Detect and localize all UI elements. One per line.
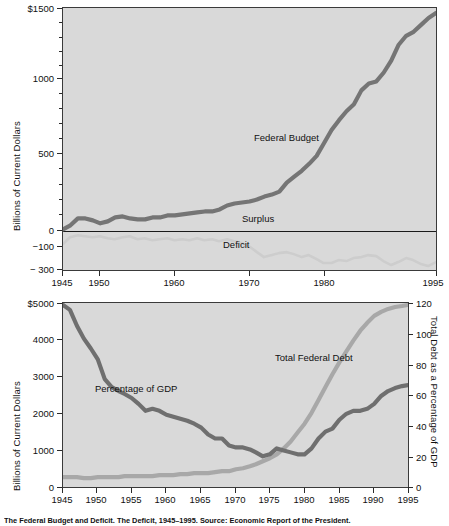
top-chart-plot-inner: Federal Budget Surplus Deficit <box>63 8 436 270</box>
top-chart-xlabel-1960: 1960 <box>163 278 184 288</box>
figure-caption: The Federal Budget and Deficit. The Defi… <box>4 517 445 526</box>
top-chart-xlabel-1970: 1970 <box>238 278 259 288</box>
top-chart-xtick-1945 <box>62 271 63 276</box>
top-chart-ylabel-0: 0 <box>4 226 54 236</box>
bottom-chart-xlabel-1950: 1950 <box>85 495 106 505</box>
top-chart-ytick-minor <box>59 51 63 52</box>
top-chart-ytick-minor <box>59 168 63 169</box>
bottom-chart-y2label-0: 0 <box>416 483 421 493</box>
bottom-chart-ylabel-4000: 4000 <box>4 335 54 345</box>
bottom-chart-annotation-total-federal-debt: Total Federal Debt <box>275 353 353 363</box>
top-chart-xtick-1960 <box>174 271 175 276</box>
bottom-chart-curves <box>63 303 408 487</box>
top-chart-xtick-1950 <box>99 271 100 276</box>
top-chart-ytick-minor <box>59 199 63 200</box>
top-chart-ytick-minor <box>59 138 63 139</box>
top-chart-ytick-0 <box>57 230 62 231</box>
top-chart-ylabel-1000: 1000 <box>4 74 54 84</box>
bottom-chart-ytick-3000 <box>57 376 62 377</box>
bottom-chart-xtick-1995 <box>408 488 409 493</box>
bottom-chart-y2label-80: 80 <box>416 361 427 371</box>
bottom-chart-y2tick-100 <box>408 334 413 335</box>
top-chart-ytick-1000 <box>57 78 62 79</box>
bottom-chart-xtick-1945 <box>62 488 63 493</box>
top-chart-xtick-1970 <box>249 271 250 276</box>
bottom-chart-xlabel-1945: 1945 <box>51 495 72 505</box>
bottom-chart-y2tick-80 <box>408 365 413 366</box>
top-chart-xtick-1995 <box>436 271 437 276</box>
top-chart-xlabel-1950: 1950 <box>88 278 109 288</box>
top-chart-ylabel-minus100: −100 <box>4 242 54 252</box>
bottom-chart-y2label-40: 40 <box>416 422 427 432</box>
bottom-chart-xlabel-1990: 1990 <box>362 495 383 505</box>
bottom-chart-xlabel-1960: 1960 <box>154 495 175 505</box>
bottom-chart-xlabel-1995: 1995 <box>397 495 418 505</box>
bottom-chart-xlabel-1965: 1965 <box>189 495 210 505</box>
top-chart-annotation-deficit: Deficit <box>223 240 249 250</box>
bottom-chart-xtick-1970 <box>235 488 236 493</box>
top-chart-ytick-minor <box>59 108 63 109</box>
bottom-chart-xtick-1985 <box>339 488 340 493</box>
bottom-chart-ytick-2000 <box>57 413 62 414</box>
bottom-chart-y2tick-60 <box>408 395 413 396</box>
top-chart-ylabel-500: 500 <box>4 149 54 159</box>
bottom-chart-xtick-1990 <box>373 488 374 493</box>
bottom-chart-xlabel-1975: 1975 <box>258 495 279 505</box>
bottom-chart-xtick-1980 <box>304 488 305 493</box>
top-chart-xlabel-1945: 1945 <box>51 278 72 288</box>
top-chart-ytick-minor <box>59 123 63 124</box>
bottom-chart-y2tick-40 <box>408 426 413 427</box>
top-chart-ytick-minor <box>59 37 63 38</box>
bottom-chart-y2tick-120 <box>408 303 413 304</box>
bottom-chart-xtick-1965 <box>200 488 201 493</box>
bottom-chart-xtick-1975 <box>269 488 270 493</box>
top-chart-y-axis-title: Billions of Current Dollars <box>11 121 22 231</box>
top-chart-xlabel-1995: 1995 <box>422 278 443 288</box>
figure-federal-budget-and-debt: Billions of Current Dollars Federal Budg… <box>0 0 449 526</box>
bottom-chart-plot-area: Percentage of GDP Total Federal Debt <box>62 302 409 488</box>
top-chart-ytick-minus300 <box>57 269 62 270</box>
top-chart-curves <box>63 8 436 270</box>
top-chart-ylabel-minus300: − 300 <box>0 265 54 275</box>
bottom-chart-annotation-percentage-of-gdp: Percentage of GDP <box>95 384 177 394</box>
top-chart-ytick-minor <box>59 65 63 66</box>
bottom-chart-y2tick-20 <box>408 457 413 458</box>
bottom-chart-xtick-1955 <box>131 488 132 493</box>
bottom-chart-ytick-5000 <box>57 303 62 304</box>
bottom-chart-y2label-120: 120 <box>416 299 432 309</box>
bottom-chart-plot-inner: Percentage of GDP Total Federal Debt <box>63 303 408 487</box>
bottom-chart-ytick-1000 <box>57 450 62 451</box>
bottom-chart-ylabel-1000: 1000 <box>4 446 54 456</box>
bottom-chart-xlabel-1955: 1955 <box>120 495 141 505</box>
bottom-chart-xtick-1960 <box>165 488 166 493</box>
bottom-chart-xlabel-1980: 1980 <box>293 495 314 505</box>
bottom-chart-ylabel-2000: 2000 <box>4 409 54 419</box>
top-chart-ytick-minus100 <box>57 246 62 247</box>
top-chart-annotation-surplus: Surplus <box>242 214 274 224</box>
top-chart-xlabel-1980: 1980 <box>313 278 334 288</box>
bottom-chart-ylabel-3000: 3000 <box>4 372 54 382</box>
top-chart-xtick-1980 <box>324 271 325 276</box>
top-chart-series-deficit <box>63 235 436 266</box>
bottom-chart-ylabel-5000: $5000 <box>4 299 54 309</box>
bottom-chart-y-axis-title: Billions of Current Dollars <box>11 381 22 491</box>
top-chart-ytick-minor <box>59 184 63 185</box>
top-chart-ytick-minor <box>59 93 63 94</box>
top-chart-ytick-1500 <box>57 8 62 9</box>
bottom-chart-ytick-4000 <box>57 339 62 340</box>
top-chart-ytick-minor <box>59 22 63 23</box>
top-chart-ytick-500 <box>57 153 62 154</box>
top-chart-plot-area: Federal Budget Surplus Deficit <box>62 7 437 271</box>
bottom-chart-y2label-100: 100 <box>416 330 432 340</box>
chart-federal-budget: Billions of Current Dollars Federal Budg… <box>0 0 449 290</box>
bottom-chart-series-percentage-of-gdp <box>63 305 408 456</box>
bottom-chart-y2label-60: 60 <box>416 391 427 401</box>
top-chart-series-federal-budget <box>63 13 436 229</box>
bottom-chart-xtick-1950 <box>96 488 97 493</box>
top-chart-ytick-minor <box>59 214 63 215</box>
bottom-chart-xlabel-1985: 1985 <box>328 495 349 505</box>
top-chart-annotation-federal-budget: Federal Budget <box>254 133 319 143</box>
bottom-chart-xlabel-1970: 1970 <box>224 495 245 505</box>
bottom-chart-y2label-20: 20 <box>416 453 427 463</box>
chart-total-federal-debt: Billions of Current Dollars Total Debt a… <box>0 295 449 515</box>
